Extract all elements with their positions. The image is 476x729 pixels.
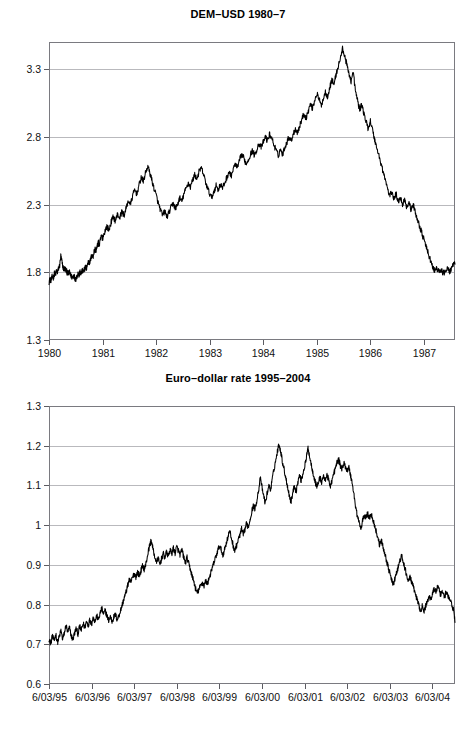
svg-text:6/03/00: 6/03/00 xyxy=(245,691,280,703)
chart-dem-usd: DEM–USD 1980–7 3.32.82.31.81.31980198119… xyxy=(0,0,476,370)
svg-text:1.2: 1.2 xyxy=(26,440,41,452)
svg-text:1.1: 1.1 xyxy=(26,479,41,491)
chart-euro-dollar: Euro–dollar rate 1995–2004 1.31.21.110.9… xyxy=(0,370,476,729)
svg-text:2.8: 2.8 xyxy=(26,131,41,143)
chart-title-euro-dollar: Euro–dollar rate 1995–2004 xyxy=(0,370,476,384)
svg-text:6/03/95: 6/03/95 xyxy=(32,691,67,703)
svg-text:1987: 1987 xyxy=(413,347,437,359)
svg-text:6/03/99: 6/03/99 xyxy=(202,691,237,703)
chart-title-dem-usd: DEM–USD 1980–7 xyxy=(0,0,476,20)
plot-area-euro-dollar: 1.31.21.110.90.80.70.66/03/956/03/966/03… xyxy=(0,384,476,724)
svg-text:1.3: 1.3 xyxy=(26,334,41,346)
svg-text:2.3: 2.3 xyxy=(26,199,41,211)
plot-svg-dem-usd: 3.32.82.31.81.31980198119821983198419851… xyxy=(0,20,476,372)
svg-text:0.6: 0.6 xyxy=(26,678,41,690)
svg-text:1.8: 1.8 xyxy=(26,266,41,278)
svg-text:6/03/98: 6/03/98 xyxy=(160,691,195,703)
svg-text:0.9: 0.9 xyxy=(26,559,41,571)
svg-text:6/03/03: 6/03/03 xyxy=(373,691,408,703)
plot-svg-euro-dollar: 1.31.21.110.90.80.70.66/03/956/03/966/03… xyxy=(0,384,476,724)
svg-text:6/03/02: 6/03/02 xyxy=(330,691,365,703)
svg-text:1981: 1981 xyxy=(92,347,116,359)
svg-text:3.3: 3.3 xyxy=(26,63,41,75)
svg-text:1: 1 xyxy=(35,519,41,531)
svg-text:0.7: 0.7 xyxy=(26,638,41,650)
svg-text:1986: 1986 xyxy=(359,347,383,359)
svg-text:1984: 1984 xyxy=(252,347,276,359)
svg-text:6/03/96: 6/03/96 xyxy=(75,691,110,703)
svg-text:0.8: 0.8 xyxy=(26,599,41,611)
svg-text:1.3: 1.3 xyxy=(26,400,41,412)
svg-text:6/03/04: 6/03/04 xyxy=(415,691,450,703)
series-line-dem-usd xyxy=(49,46,455,285)
svg-text:1985: 1985 xyxy=(306,347,330,359)
svg-text:6/03/01: 6/03/01 xyxy=(288,691,323,703)
plot-area-dem-usd: 3.32.82.31.81.31980198119821983198419851… xyxy=(0,20,476,372)
svg-text:1980: 1980 xyxy=(38,347,62,359)
series-line-euro-dollar xyxy=(49,444,455,645)
svg-text:6/03/97: 6/03/97 xyxy=(117,691,152,703)
svg-text:1983: 1983 xyxy=(199,347,223,359)
svg-text:1982: 1982 xyxy=(145,347,169,359)
